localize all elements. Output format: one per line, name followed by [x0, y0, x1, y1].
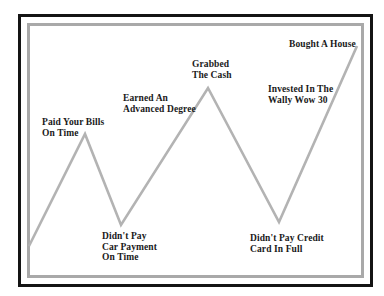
label-bought-house: Bought A House — [289, 39, 356, 50]
label-earned-degree: Earned An Advanced Degree — [123, 93, 196, 114]
label-line: Paid Your Bills — [42, 117, 104, 128]
label-line: Didn't Pay Credit — [250, 233, 324, 244]
label-paid-bills: Paid Your Bills On Time — [42, 117, 104, 138]
label-no-credit-card: Didn't Pay Credit Card In Full — [250, 233, 324, 254]
label-line: On Time — [102, 252, 157, 263]
label-line: Wally Wow 30 — [268, 95, 333, 106]
label-line: Didn't Pay — [102, 231, 157, 242]
label-line: Bought A House — [289, 39, 356, 50]
label-grabbed-cash: Grabbed The Cash — [192, 59, 232, 80]
label-line: Earned An — [123, 93, 196, 104]
label-line: Advanced Degree — [123, 104, 196, 115]
label-line: Invested In The — [268, 84, 333, 95]
label-line: Car Payment — [102, 242, 157, 253]
label-invested-wally: Invested In The Wally Wow 30 — [268, 84, 333, 105]
label-line: Grabbed — [192, 59, 232, 70]
label-line: The Cash — [192, 70, 232, 81]
label-line: Card In Full — [250, 244, 324, 255]
label-no-car-payment: Didn't Pay Car Payment On Time — [102, 231, 157, 263]
label-line: On Time — [42, 128, 104, 139]
